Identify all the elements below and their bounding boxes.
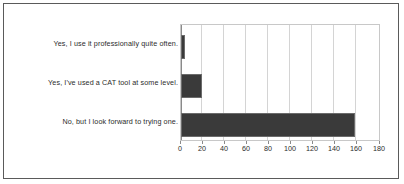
bar-series [181,25,379,140]
category-label-0: Yes, I use it professionally quite often… [10,39,178,48]
bar-0 [181,35,185,59]
bar-chart: Yes, I use it professionally quite often… [0,0,404,184]
xtick-label-3: 60 [242,144,250,154]
category-axis-labels: Yes, I use it professionally quite often… [10,24,178,141]
category-label-2: No, but I look forward to trying one. [10,117,178,126]
bar-1 [181,74,202,98]
chart-screenshot: Yes, I use it professionally quite often… [0,0,404,184]
xtick-label-5: 100 [284,144,296,154]
xtick-label-0: 0 [178,144,182,154]
xtick-label-6: 120 [306,144,318,154]
x-axis-tick-labels: 0 20 40 60 80 100 120 140 160 180 [180,144,380,158]
xtick-label-4: 80 [264,144,272,154]
category-label-1: Yes, I've used a CAT tool at some level. [10,78,178,87]
xtick-label-8: 160 [350,144,362,154]
xtick-label-9: 180 [373,144,385,154]
plot-area [180,24,380,141]
xtick-label-2: 40 [220,144,228,154]
bar-2 [181,113,355,137]
xtick-label-7: 140 [328,144,340,154]
xtick-label-1: 20 [198,144,206,154]
